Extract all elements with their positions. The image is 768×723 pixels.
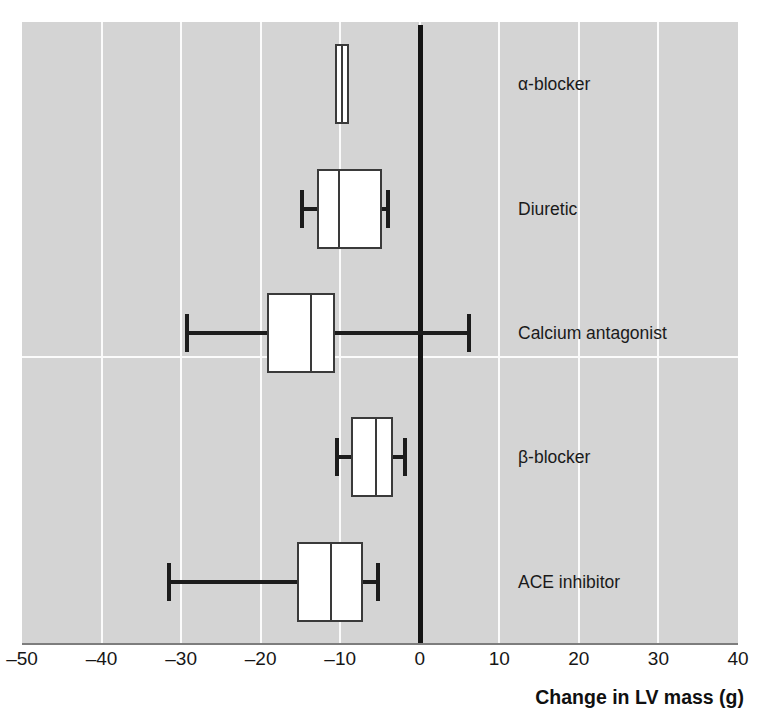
x-tick-label: 20 <box>568 648 589 670</box>
median-line <box>330 542 332 622</box>
x-tick-label: –20 <box>245 648 277 670</box>
x-tick-label: 0 <box>414 648 425 670</box>
x-axis-line <box>22 643 738 645</box>
x-tick-label: –50 <box>6 648 38 670</box>
boxplot-figure: α-blockerDiureticCalcium antagonistβ-blo… <box>0 0 768 723</box>
x-tick-label: 30 <box>648 648 669 670</box>
category-label: ACE inhibitor <box>518 572 620 593</box>
x-tick-label: –40 <box>86 648 118 670</box>
x-tick-label: –30 <box>165 648 197 670</box>
x-tick-label: 40 <box>727 648 748 670</box>
boxplot-ace-inhibitor <box>22 22 738 644</box>
whisker-cap-low <box>167 563 171 601</box>
x-tick-label: 10 <box>489 648 510 670</box>
x-axis-title: Change in LV mass (g) <box>535 686 744 709</box>
x-tick-label: –10 <box>324 648 356 670</box>
plot-area: α-blockerDiureticCalcium antagonistβ-blo… <box>22 22 738 644</box>
whisker-cap-high <box>376 563 380 601</box>
